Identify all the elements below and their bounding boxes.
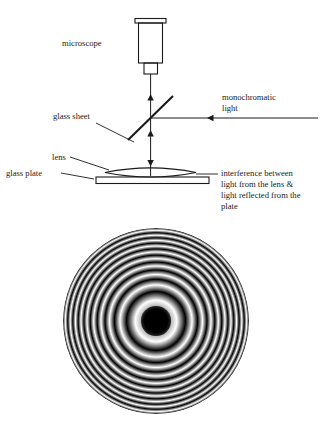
apparatus-diagram: microscope monochromatic light glass she… bbox=[0, 0, 333, 226]
glass-plate-leader-line bbox=[61, 173, 94, 179]
newtons-rings-dark-center bbox=[141, 306, 170, 335]
beam-arrow-down-to-lens bbox=[147, 160, 153, 167]
interference-label-line2: light from the lens & bbox=[221, 179, 293, 189]
figure-root: microscope monochromatic light glass she… bbox=[0, 0, 333, 424]
glass-plate-label: glass plate bbox=[6, 168, 42, 178]
monochromatic-light-label-line1: monochromatic bbox=[222, 92, 276, 102]
beam-arrow-up-upper bbox=[147, 94, 153, 101]
microscope-barrel bbox=[139, 23, 163, 63]
newtons-rings-pattern bbox=[63, 228, 249, 414]
microscope-label: microscope bbox=[62, 38, 102, 48]
glass-sheet-leader-line bbox=[96, 123, 134, 142]
interference-label-line1: interference between bbox=[221, 168, 294, 178]
glass-plate-shape bbox=[96, 177, 209, 184]
interference-label-line4: plate bbox=[221, 201, 238, 211]
beam-arrow-up-lower bbox=[147, 130, 153, 137]
glass-sheet-label: glass sheet bbox=[53, 111, 91, 121]
lens-leader-line bbox=[70, 157, 109, 170]
microscope-group bbox=[135, 19, 166, 75]
microscope-objective bbox=[144, 63, 158, 74]
monochromatic-light-label-line2: light bbox=[222, 103, 238, 113]
incoming-beam-group bbox=[151, 115, 318, 121]
incoming-beam-arrow-left bbox=[207, 115, 214, 121]
microscope-cap bbox=[135, 19, 166, 24]
interference-label-line3: light reflected from the bbox=[221, 190, 301, 200]
lens-label: lens bbox=[52, 152, 66, 162]
vertical-beam-group bbox=[147, 74, 153, 176]
